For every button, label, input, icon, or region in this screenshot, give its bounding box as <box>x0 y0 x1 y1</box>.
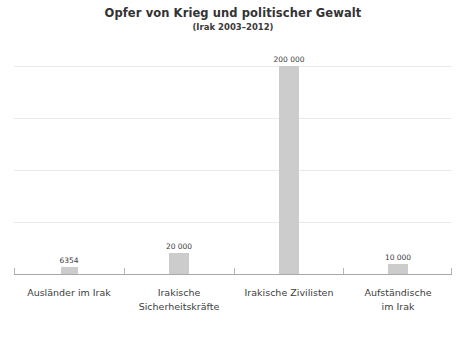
bar-0[interactable] <box>61 267 78 274</box>
bar-value-1: 20 000 <box>139 242 219 251</box>
bar-3[interactable] <box>388 264 408 274</box>
plot-area <box>14 66 452 274</box>
chart-subtitle: (Irak 2003–2012) <box>0 21 466 33</box>
bar-value-0: 6354 <box>29 256 109 265</box>
bar-1[interactable] <box>169 253 189 274</box>
bar-2[interactable] <box>279 66 299 274</box>
axis-tick-3 <box>343 268 344 274</box>
bar-value-3: 10 000 <box>358 253 438 262</box>
bar-value-2: 200 000 <box>249 55 329 64</box>
axis-tick-end <box>451 268 452 274</box>
gridline-150000 <box>14 118 452 119</box>
category-label-2: Irakische Zivilisten <box>229 286 349 300</box>
x-axis-line <box>14 274 452 275</box>
bar-chart: Opfer von Krieg und politischer Gewalt (… <box>0 0 466 340</box>
category-label-0: Ausländer im Irak <box>9 286 129 300</box>
title-block: Opfer von Krieg und politischer Gewalt (… <box>0 6 466 33</box>
gridline-50000 <box>14 222 452 223</box>
category-label-3: Aufständische im Irak <box>338 286 458 314</box>
gridline-200000 <box>14 66 452 67</box>
chart-title: Opfer von Krieg und politischer Gewalt <box>0 6 466 20</box>
gridline-100000 <box>14 170 452 171</box>
category-label-1: Irakische Sicherheitskräfte <box>119 286 239 314</box>
axis-tick-2 <box>234 268 235 274</box>
axis-tick-1 <box>124 268 125 274</box>
axis-tick-start <box>14 268 15 274</box>
